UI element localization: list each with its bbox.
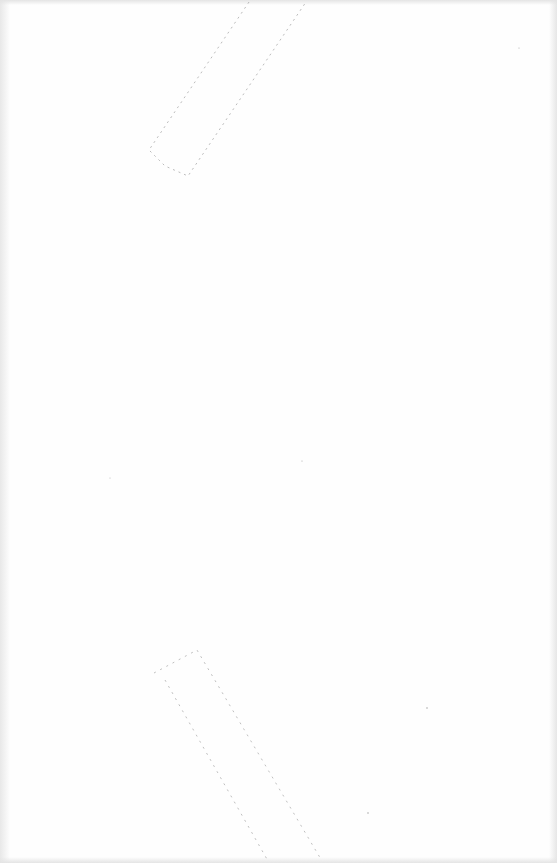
tape-mark-top: [149, 2, 306, 176]
tape-marks: [0, 0, 557, 863]
tape-mark-bottom: [154, 650, 322, 861]
scan-specks: [110, 47, 520, 813]
scanned-page: [0, 0, 557, 863]
